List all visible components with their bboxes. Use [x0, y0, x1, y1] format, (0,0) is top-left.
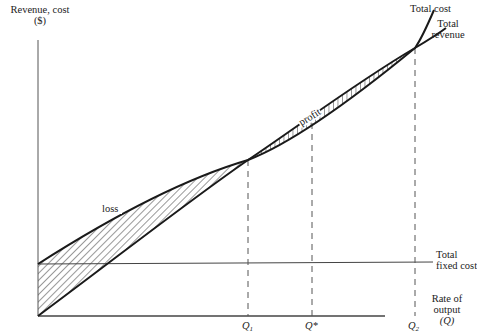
x-axis-label-line2: output	[427, 304, 467, 315]
total-revenue-label: Total revenue	[428, 18, 468, 40]
x-axis-label-line1: Rate of	[427, 293, 467, 304]
q2-tick-label: Q2	[408, 320, 419, 332]
total-revenue-label-line2: revenue	[428, 29, 468, 40]
y-axis-label-line1: Revenue, cost	[2, 4, 78, 15]
x-axis-label-line3: (Q)	[427, 315, 467, 326]
y-axis-label-line2: ($)	[2, 15, 78, 26]
total-fixed-cost-label-line2: fixed cost	[436, 260, 477, 271]
y-axis-label: Revenue, cost ($)	[2, 4, 78, 26]
total-cost-curve	[38, 10, 434, 264]
q1-tick-label: Q1	[242, 320, 253, 332]
total-revenue-label-line1: Total	[428, 18, 468, 29]
total-cost-label: Total cost	[410, 3, 451, 14]
loss-label: loss	[102, 203, 118, 214]
qstar-tick-label: Q*	[305, 320, 318, 331]
total-fixed-cost-label: Total fixed cost	[436, 249, 477, 271]
x-axis-label: Rate of output (Q)	[427, 293, 467, 326]
total-fixed-cost-label-line1: Total	[436, 249, 477, 260]
